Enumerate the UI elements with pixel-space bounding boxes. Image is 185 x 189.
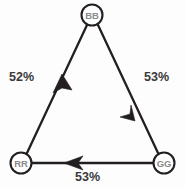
node-rr-label: RR xyxy=(14,158,28,169)
edge-rr-to-bb xyxy=(27,25,87,153)
node-rr[interactable]: RR xyxy=(11,153,32,174)
edge-bb-to-gg xyxy=(98,25,158,153)
node-gg-label: GG xyxy=(157,158,171,169)
edge-label-bb-to-gg: 53% xyxy=(144,70,169,84)
diagram-canvas: BB RR GG xyxy=(0,0,185,189)
edge-gg-to-rr xyxy=(32,156,153,170)
node-bb-label: BB xyxy=(85,10,99,21)
edge-label-rr-to-bb: 52% xyxy=(9,70,34,84)
edge-label-gg-to-rr: 53% xyxy=(75,170,100,184)
edge-bb-to-gg-arrowhead xyxy=(120,105,135,121)
edge-bb-to-gg-line xyxy=(98,25,158,153)
edge-rr-to-bb-arrowhead xyxy=(53,74,72,93)
graph-diagram: BB RR GG 52% 53% 53% xyxy=(0,0,185,189)
node-gg[interactable]: GG xyxy=(154,153,175,174)
node-bb[interactable]: BB xyxy=(82,5,103,26)
